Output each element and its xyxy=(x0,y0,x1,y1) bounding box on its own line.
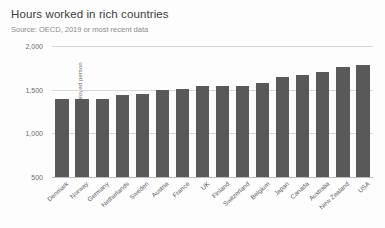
y-tick-label: 2,000 xyxy=(3,43,43,50)
bar[interactable] xyxy=(116,95,129,177)
bar[interactable] xyxy=(336,67,349,177)
bar[interactable] xyxy=(296,75,309,177)
x-tick-label: Belgium xyxy=(248,180,270,201)
bar[interactable] xyxy=(316,72,329,177)
y-tick-label: 1,500 xyxy=(3,86,43,93)
bar[interactable] xyxy=(356,65,369,177)
bar[interactable] xyxy=(136,94,149,177)
x-tick-label: France xyxy=(171,180,190,199)
bar[interactable] xyxy=(55,99,68,177)
chart-subtitle: Source: OECD, 2019 or most recent data xyxy=(11,25,148,34)
plot-area: Working hours per employed person 5001,0… xyxy=(52,46,373,177)
x-tick-label: UK xyxy=(199,180,210,191)
x-tick-label: Austria xyxy=(151,180,170,199)
bar[interactable] xyxy=(256,83,269,177)
bar[interactable] xyxy=(236,86,249,177)
bar[interactable] xyxy=(196,86,209,177)
bar[interactable] xyxy=(276,77,289,177)
bar[interactable] xyxy=(176,89,189,177)
gridline xyxy=(52,177,373,178)
bar[interactable] xyxy=(75,99,88,177)
x-tick-label: Denmark xyxy=(46,180,70,203)
chart-figure: Hours worked in rich countries Source: O… xyxy=(0,0,385,228)
gridline xyxy=(52,46,373,47)
bar[interactable] xyxy=(216,86,229,177)
chart-title: Hours worked in rich countries xyxy=(11,8,169,20)
y-tick-label: 1,000 xyxy=(3,130,43,137)
x-tick-label: Sweden xyxy=(128,180,150,201)
y-tick-label: 500 xyxy=(3,174,43,181)
bar[interactable] xyxy=(96,99,109,177)
bar[interactable] xyxy=(156,90,169,177)
x-tick-label: USA xyxy=(356,180,370,194)
